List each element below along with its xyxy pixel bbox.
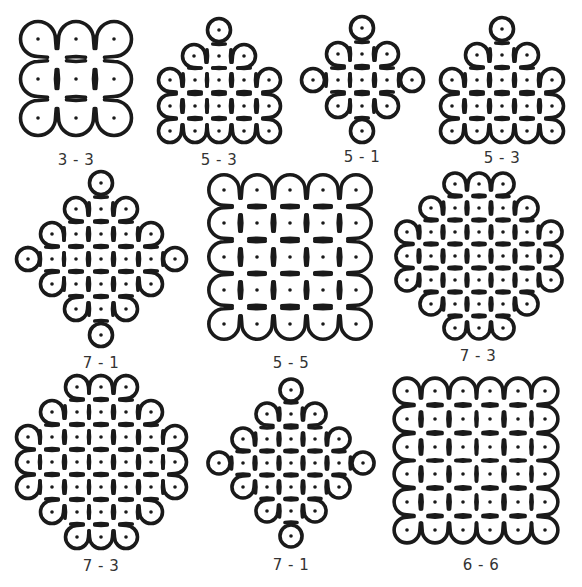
pulli-dot [289, 437, 293, 441]
pulli-dot [550, 78, 554, 82]
pulli-dot [477, 206, 481, 210]
pulli-dot [124, 435, 128, 439]
pulli-dot [173, 460, 177, 464]
pulli-dot [461, 528, 465, 532]
pulli-dot [501, 230, 505, 234]
pulli-dot [217, 78, 221, 82]
pulli-dot [461, 389, 465, 393]
pulli-dot [265, 485, 269, 489]
pulli-dot [525, 302, 529, 306]
pulli-dot [516, 472, 520, 476]
pulli-dot [288, 288, 292, 292]
kolam-label-3-3: 3 - 3 [58, 151, 95, 169]
pulli-dot [550, 129, 554, 133]
pulli-dot [50, 282, 54, 286]
kolam-9 [394, 378, 558, 543]
pulli-dot [488, 500, 492, 504]
pulli-dot [112, 77, 116, 81]
pulli-dot [241, 461, 245, 465]
pulli-dot [360, 26, 364, 30]
pulli-dot [385, 52, 389, 56]
pulli-dot [488, 528, 492, 532]
pulli-dot [543, 445, 547, 449]
pulli-dot [516, 445, 520, 449]
pulli-dot [267, 104, 271, 108]
pulli-dot [124, 535, 128, 539]
pulli-dot [74, 232, 78, 236]
pulli-dot [168, 129, 172, 133]
pulli-dot [360, 129, 364, 133]
pulli-dot [525, 206, 529, 210]
pulli-dot [516, 500, 520, 504]
pulli-dot [525, 129, 529, 133]
pulli-dot [501, 302, 505, 306]
pulli-dot [361, 461, 365, 465]
pulli-dot [405, 278, 409, 282]
pulli-dot [74, 207, 78, 211]
pulli-dot [360, 104, 364, 108]
kolam-7 [17, 376, 187, 549]
pulli-dot [311, 78, 315, 82]
pulli-dot [75, 485, 79, 489]
pulli-dot [99, 207, 103, 211]
kolam-3 [441, 18, 564, 143]
pulli-dot [354, 288, 358, 292]
pulli-dot [255, 188, 259, 192]
kolam-2 [302, 17, 424, 143]
pulli-dot [433, 500, 437, 504]
kolam-1 [159, 19, 281, 143]
kolam-5 [209, 175, 371, 339]
pulli-dot [488, 472, 492, 476]
pulli-dot [525, 53, 529, 57]
pulli-dot [313, 485, 317, 489]
pulli-dot [543, 417, 547, 421]
kolam-figure: 3 - 3 5 - 3 5 - 1 5 - 3 7 - 1 5 - 5 7 - … [0, 0, 582, 587]
pulli-dot [500, 78, 504, 82]
pulli-dot [501, 254, 505, 258]
pulli-dot [336, 78, 340, 82]
pulli-dot [242, 78, 246, 82]
pulli-dot [405, 417, 409, 421]
pulli-dot [477, 230, 481, 234]
pulli-dot [477, 326, 481, 330]
pulli-dot [453, 302, 457, 306]
pulli-dot [488, 445, 492, 449]
pulli-dot [99, 385, 103, 389]
pulli-dot [173, 257, 177, 261]
pulli-dot [99, 232, 103, 236]
pulli-dot [124, 307, 128, 311]
pulli-dot [321, 188, 325, 192]
pulli-dot [405, 528, 409, 532]
kolam-drawings [0, 0, 582, 587]
kolam-8 [208, 379, 374, 547]
pulli-dot [222, 188, 226, 192]
pulli-dot [222, 288, 226, 292]
pulli-dot [242, 129, 246, 133]
pulli-dot [500, 27, 504, 31]
pulli-dot [461, 417, 465, 421]
kolam-4 [17, 172, 187, 347]
pulli-dot [50, 460, 54, 464]
pulli-dot [289, 534, 293, 538]
pulli-dot [75, 460, 79, 464]
pulli-dot [75, 535, 79, 539]
pulli-dot [255, 221, 259, 225]
kolam-label-7-3-a: 7 - 3 [460, 347, 497, 365]
pulli-dot [313, 412, 317, 416]
pulli-dot [50, 510, 54, 514]
pulli-dot [241, 485, 245, 489]
pulli-dot [74, 257, 78, 261]
pulli-dot [549, 254, 553, 258]
pulli-dot [429, 302, 433, 306]
pulli-dot [475, 104, 479, 108]
pulli-dot [124, 460, 128, 464]
pulli-dot [354, 188, 358, 192]
pulli-dot [461, 445, 465, 449]
pulli-dot [241, 437, 245, 441]
pulli-dot [501, 278, 505, 282]
pulli-dot [549, 230, 553, 234]
pulli-dot [500, 129, 504, 133]
pulli-dot [429, 254, 433, 258]
pulli-dot [453, 230, 457, 234]
pulli-dot [173, 485, 177, 489]
